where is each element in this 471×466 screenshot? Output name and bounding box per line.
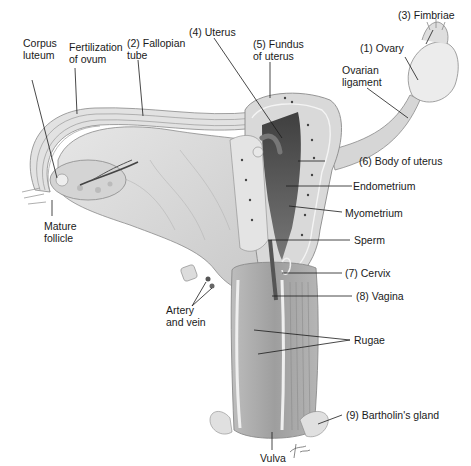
label-fundus: (5) Fundus of uterus bbox=[253, 38, 304, 62]
label-mature-follicle: Mature follicle bbox=[44, 220, 77, 244]
label-fimbriae: (3) Fimbriae bbox=[398, 9, 455, 21]
uterus-illustration bbox=[230, 93, 342, 275]
label-vulva: Vulva bbox=[260, 452, 286, 464]
label-rugae: Rugae bbox=[354, 334, 385, 346]
label-uterus: (4) Uterus bbox=[189, 26, 236, 38]
vessels bbox=[180, 264, 214, 288]
label-bartholins-gland: (9) Bartholin's gland bbox=[346, 409, 439, 421]
label-cervix: (7) Cervix bbox=[345, 267, 391, 279]
label-fertilization: Fertilization of ovum bbox=[69, 41, 123, 65]
vagina-illustration bbox=[231, 240, 318, 438]
artist-signature bbox=[290, 444, 310, 458]
label-sperm: Sperm bbox=[354, 234, 385, 246]
reproductive-system-diagram: (3) Fimbriae (1) Ovary Ovarian ligament … bbox=[0, 0, 471, 466]
ovary-illustration bbox=[408, 19, 458, 102]
label-ovary: (1) Ovary bbox=[360, 42, 404, 54]
label-corpus-luteum: Corpus luteum bbox=[23, 37, 57, 61]
label-endometrium: Endometrium bbox=[353, 180, 415, 192]
label-artery-and-vein: Artery and vein bbox=[166, 304, 206, 328]
label-fallopian-tube: (2) Fallopian tube bbox=[127, 37, 185, 61]
label-body-of-uterus: (6) Body of uterus bbox=[359, 155, 442, 167]
label-vagina: (8) Vagina bbox=[356, 290, 404, 302]
label-ovarian-ligament: Ovarian ligament bbox=[342, 64, 382, 88]
label-myometrium: Myometrium bbox=[345, 207, 403, 219]
